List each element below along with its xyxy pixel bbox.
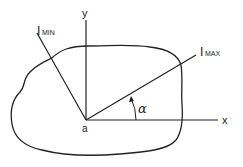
- angle-label: α: [138, 101, 147, 116]
- origin-label: a: [82, 123, 88, 134]
- imax-label-main: I: [200, 45, 203, 59]
- arrowhead-icon: [129, 96, 134, 102]
- imax-label-sub: MAX: [205, 50, 221, 57]
- x-axis-label: x: [222, 114, 228, 126]
- imin-label-main: I: [37, 24, 40, 38]
- y-axis-label: y: [82, 7, 88, 19]
- area-outline: [11, 45, 182, 155]
- imin-label-sub: MIN: [42, 29, 55, 36]
- principal-axes-diagram: y x a I MIN I MAX α: [0, 0, 243, 167]
